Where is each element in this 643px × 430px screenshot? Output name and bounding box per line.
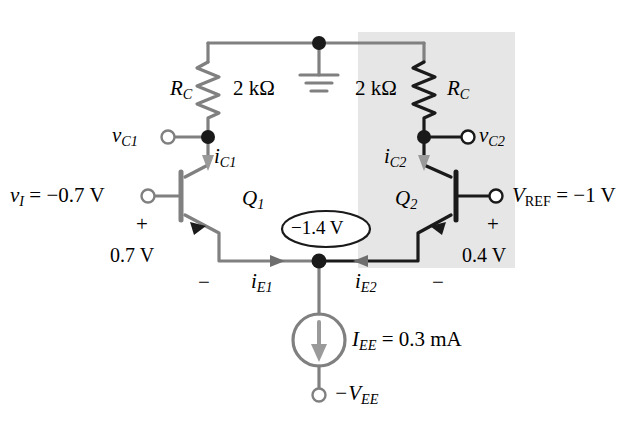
- resistor-rc-left: [197, 62, 219, 137]
- vbe1-minus-sign: −: [198, 272, 210, 293]
- emitter-node-voltage-label: −1.4 V: [291, 218, 344, 237]
- rc-right-value: 2 kΩ: [355, 78, 397, 99]
- vbe1-plus-sign: +: [136, 214, 148, 235]
- current-source-arrow-head: [311, 344, 327, 362]
- circuit-figure: RC 2 kΩ 2 kΩ RC vC1 vC2 iC1 iC2 vI = −0.…: [0, 0, 643, 430]
- ic1-label: iC1: [214, 146, 237, 167]
- rc-right-label: RC: [447, 78, 469, 99]
- collector1-node: [201, 130, 215, 144]
- vi-input-label: vI = −0.7 V: [10, 185, 105, 206]
- vc2-label: vC2: [479, 125, 505, 146]
- vee-terminal[interactable]: [313, 389, 326, 402]
- ie2-label: iE2: [355, 271, 377, 292]
- ie1-label: iE1: [251, 271, 273, 292]
- vref-label: VREF = −1 V: [512, 185, 616, 206]
- vi-terminal[interactable]: [142, 190, 155, 203]
- vee-terminal-label: −VEE: [334, 383, 378, 404]
- ic2-label: iC2: [384, 146, 407, 167]
- vbe1-value: 0.7 V: [110, 245, 154, 265]
- vbe2-value: 0.4 V: [462, 245, 506, 265]
- vc1-label: vC1: [112, 125, 138, 146]
- schematic-canvas: [0, 0, 643, 430]
- rc-left-label: RC: [170, 78, 192, 99]
- iee-label: IEE = 0.3 mA: [352, 329, 462, 350]
- q1-label: Q1: [242, 188, 264, 209]
- supply-ground-node: [312, 36, 326, 50]
- rc-left-value: 2 kΩ: [233, 78, 275, 99]
- ie1-current-arrow: [270, 255, 285, 267]
- q2-label: Q2: [395, 188, 417, 209]
- emitter-common-node: [312, 254, 327, 269]
- vc1-terminal[interactable]: [162, 131, 175, 144]
- vc2-terminal[interactable]: [462, 131, 475, 144]
- collector2-node: [417, 130, 431, 144]
- vbe2-plus-sign: +: [487, 214, 499, 235]
- vbe2-minus-sign: −: [432, 272, 444, 293]
- vref-terminal[interactable]: [490, 190, 503, 203]
